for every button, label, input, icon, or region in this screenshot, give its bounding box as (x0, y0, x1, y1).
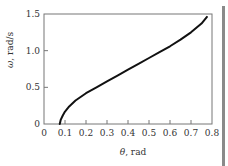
x-axis-ticks: 00.10.20.30.40.50.60.70.8 (41, 120, 219, 138)
y-axis-title: ω, rad/s (5, 32, 15, 69)
x-tick-label: 0.1 (58, 128, 72, 138)
x-tick-label: 0.6 (163, 128, 178, 138)
x-tick-label: 0 (41, 128, 47, 138)
x-tick-label: 0.3 (100, 128, 115, 138)
y-tick-label: 0 (34, 119, 40, 129)
y-tick-label: 0.5 (26, 82, 41, 92)
x-tick-label: 0.2 (79, 128, 93, 138)
x-axis-unit: , rad (125, 147, 146, 157)
y-tick-label: 1.5 (26, 9, 41, 19)
omega-theta-curve (60, 17, 207, 124)
x-tick-label: 0.8 (205, 128, 220, 138)
chart: 00.10.20.30.40.50.60.70.8 00.51.01.5 θ, … (0, 0, 228, 166)
x-tick-label: 0.4 (121, 128, 136, 138)
x-tick-label: 0.7 (184, 128, 199, 138)
y-tick-label: 1.0 (26, 46, 41, 56)
y-axis-unit: , rad/s (5, 32, 15, 61)
x-tick-label: 0.5 (142, 128, 157, 138)
y-axis-ticks: 00.51.01.5 (26, 9, 48, 129)
page-edge-bar (222, 6, 225, 166)
x-axis-title: θ, rad (120, 147, 147, 157)
